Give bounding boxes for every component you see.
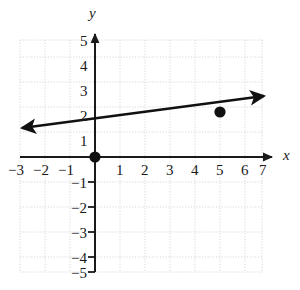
plotted-line [22, 96, 264, 128]
x-tick-label-5: 5 [216, 163, 224, 178]
point-origin [89, 151, 100, 162]
x-tick-label-4: 4 [191, 163, 199, 178]
y-tick-label-neg1: −1 [71, 176, 87, 191]
axis-lines [20, 34, 272, 272]
point-5-2 [214, 106, 225, 117]
x-axis-label: x [283, 148, 290, 163]
x-tick-label-7: 7 [259, 163, 267, 178]
y-axis-tick-marks [88, 182, 95, 272]
y-tick-label-neg3: −3 [71, 226, 87, 241]
x-tick-label-3: 3 [166, 163, 174, 178]
x-tick-label-neg2: −2 [33, 163, 49, 178]
y-tick-label-2: 2 [80, 109, 88, 124]
plotted-points [89, 106, 225, 162]
x-tick-label-2: 2 [141, 163, 149, 178]
y-axis-label: y [89, 6, 96, 21]
y-tick-label-neg4: −4 [71, 251, 87, 266]
x-tick-label-6: 6 [241, 163, 249, 178]
y-tick-label-5: 5 [80, 34, 88, 49]
x-tick-label-1: 1 [116, 163, 124, 178]
coordinate-plane-svg [0, 0, 300, 290]
y-tick-label-1: 1 [80, 134, 88, 149]
y-tick-label-neg5: −5 [71, 266, 87, 281]
y-tick-label-4: 4 [80, 59, 88, 74]
x-tick-label-neg3: −3 [8, 163, 24, 178]
graph-figure: −3 −2 −1 1 2 3 4 5 6 7 5 4 3 2 1 −1 −2 −… [0, 0, 300, 290]
y-tick-label-3: 3 [80, 84, 88, 99]
y-tick-label-neg2: −2 [71, 201, 87, 216]
